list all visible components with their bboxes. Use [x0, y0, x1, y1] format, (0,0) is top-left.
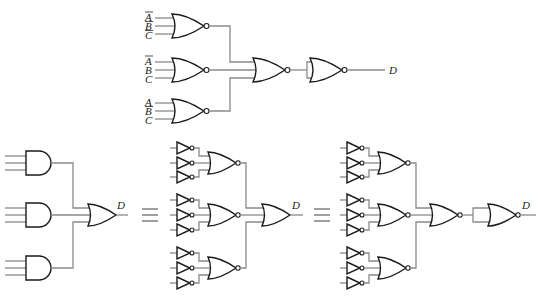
- bottom-circuit-all-nor: D: [340, 142, 536, 289]
- top-circuit: A B C A B C A B C: [144, 11, 397, 126]
- equivalence-symbol-1: [142, 209, 158, 221]
- equivalence-symbol-2: [314, 209, 330, 221]
- input-label: C: [145, 73, 153, 85]
- top-nor-gate-3: A B C: [144, 96, 209, 126]
- top-combine-nor-gate: [253, 58, 290, 82]
- nor-gate: [430, 204, 458, 226]
- output-label-d: D: [116, 199, 125, 211]
- and-gate-1: [26, 151, 51, 175]
- output-label-d: D: [521, 199, 530, 211]
- and-gate-2: [26, 203, 51, 227]
- bottom-circuit-nor-or: D: [170, 142, 303, 289]
- top-nor-gate-2: A B C: [144, 55, 209, 85]
- top-final-nor-gate: [310, 58, 347, 82]
- final-nor-gate: [488, 204, 516, 226]
- input-label: C: [145, 114, 153, 126]
- output-label-d: D: [388, 64, 397, 76]
- bottom-circuit-and-or: D: [5, 151, 128, 280]
- or-gate: [88, 204, 116, 226]
- logic-diagram: A B C A B C A B C: [0, 0, 540, 296]
- top-nor-gate-1: A B C: [144, 11, 209, 41]
- and-gate-3: [26, 256, 51, 280]
- or-gate: [262, 204, 290, 226]
- output-label-d: D: [291, 199, 300, 211]
